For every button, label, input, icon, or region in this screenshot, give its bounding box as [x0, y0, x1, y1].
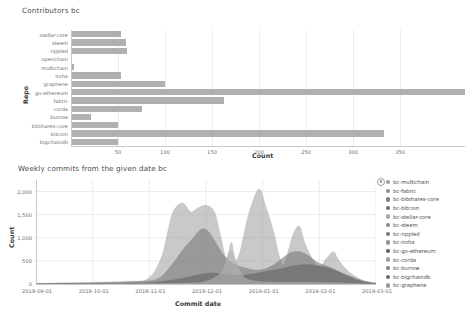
legend-item-label: bc-rippled	[393, 231, 420, 237]
bar-category-label: corda	[0, 106, 68, 112]
legend-swatch-icon	[386, 283, 390, 287]
bar-x-tick-label: 200	[253, 149, 265, 155]
bar-category-label: multichain	[0, 65, 68, 71]
legend-item-label: bc-bitcoin	[393, 205, 419, 211]
bar-category-label: bigchaindb	[0, 139, 68, 145]
bar-x-tick-label: 350	[394, 149, 406, 155]
legend-item-bc-rippled[interactable]: bc-rippled	[386, 230, 474, 239]
bar-bitcoin[interactable]	[71, 130, 384, 136]
legend-swatch-icon	[386, 214, 390, 218]
legend-swatch-icon	[386, 240, 390, 244]
visualization-page: Contributors bc Repo Count stellar-cores…	[0, 0, 475, 318]
bar-x-tick-label: 100	[159, 149, 171, 155]
legend-item-bc-multichain[interactable]: bc-multichain	[386, 178, 474, 187]
legend-swatch-icon	[386, 197, 390, 201]
legend-item-label: bc-go-ethereum	[393, 248, 436, 254]
bar-rippled[interactable]	[71, 48, 127, 54]
legend-item-label: bc-graphene	[393, 282, 427, 288]
bar-category-label: openchain	[0, 56, 68, 62]
legend-item-bc-iroha[interactable]: bc-iroha	[386, 238, 474, 247]
legend-item-label: bc-burrow	[393, 265, 420, 271]
legend-item-label: bc-fabric	[393, 188, 416, 194]
bar-category-label: fabric	[0, 98, 68, 104]
area-x-tick-label: 2019-02-01	[305, 288, 333, 294]
area-chart-y-axis-line	[36, 180, 37, 284]
bar-stellar-core[interactable]	[71, 31, 121, 37]
contributors-bar-chart: Contributors bc Repo Count stellar-cores…	[0, 16, 475, 162]
bar-chart-y-axis-line	[71, 30, 72, 146]
legend-item-label: bc-iroha	[393, 239, 415, 245]
legend-item-label: bc-steem	[393, 222, 418, 228]
area-x-tick-label: 2019-01-01	[249, 288, 277, 294]
area-y-tick-label: 1,500	[0, 212, 32, 218]
bar-category-label: stellar-core	[0, 32, 68, 38]
legend-item-bc-graphene[interactable]: bc-graphene	[386, 281, 474, 290]
legend-swatch-icon	[386, 275, 390, 279]
area-chart-x-axis-line	[36, 284, 376, 285]
bar-corda[interactable]	[71, 106, 142, 112]
legend-swatch-icon	[386, 189, 390, 193]
series-legend[interactable]: bc-multichainbc-fabricbc-bitshares-coreb…	[386, 178, 474, 290]
bar-iroha[interactable]	[71, 72, 121, 78]
bar-category-label: go-ethereum	[0, 90, 68, 96]
bar-fabric[interactable]	[71, 97, 224, 103]
legend-item-bc-go-ethereum[interactable]: bc-go-ethereum	[386, 247, 474, 256]
bar-x-tick-label: 250	[300, 149, 312, 155]
bar-x-tick-label: 300	[347, 149, 359, 155]
legend-item-bc-fabric[interactable]: bc-fabric	[386, 187, 474, 196]
legend-item-bc-steem[interactable]: bc-steem	[386, 221, 474, 230]
legend-swatch-icon	[386, 206, 390, 210]
legend-item-bc-bitcoin[interactable]: bc-bitcoin	[386, 204, 474, 213]
bar-category-label: burrow	[0, 114, 68, 120]
legend-item-label: bc-corda	[393, 257, 416, 263]
legend-swatch-icon	[386, 266, 390, 270]
bar-graphene[interactable]	[71, 81, 165, 87]
area-y-tick-label: 1,000	[0, 235, 32, 241]
bar-chart-title: Contributors bc	[22, 6, 80, 15]
area-chart-title: Weekly commits from the given date bc	[18, 164, 167, 173]
area-x-tick-label: 2018-12-01	[192, 288, 220, 294]
bar-category-label: rippled	[0, 48, 68, 54]
area-plot-area	[36, 180, 376, 284]
bar-burrow[interactable]	[71, 114, 91, 120]
bar-x-tick-label: 150	[206, 149, 218, 155]
bar-x-tick-label: 50	[112, 149, 124, 155]
area-y-tick-label: 2,000	[0, 189, 32, 195]
legend-swatch-icon	[386, 223, 390, 227]
area-chart-x-axis-title: Commit date	[175, 300, 221, 308]
bar-category-label: steem	[0, 40, 68, 46]
area-y-tick-label: 500	[0, 258, 32, 264]
bar-category-label: bitcoin	[0, 131, 68, 137]
bar-plot-area	[71, 30, 465, 146]
legend-item-bc-bitshares-core[interactable]: bc-bitshares-core	[386, 195, 474, 204]
area-series-svg	[36, 180, 376, 284]
area-x-tick-label: 2018-11-01	[135, 288, 163, 294]
legend-swatch-icon	[386, 180, 390, 184]
bar-steem[interactable]	[71, 39, 126, 45]
bar-go-ethereum[interactable]	[71, 89, 465, 95]
area-x-tick-label: 2018-10-01	[79, 288, 107, 294]
legend-swatch-icon	[386, 232, 390, 236]
legend-item-label: bc-stellar-core	[393, 214, 431, 220]
legend-swatch-icon	[386, 249, 390, 253]
bar-chart-x-axis-line	[71, 146, 465, 147]
drag-handle-icon[interactable]	[377, 178, 385, 186]
legend-swatch-icon	[386, 257, 390, 261]
bar-category-label: graphene	[0, 81, 68, 87]
legend-item-bc-bigchaindb[interactable]: bc-bigchaindb	[386, 273, 474, 282]
legend-item-bc-burrow[interactable]: bc-burrow	[386, 264, 474, 273]
bar-bitshares-core[interactable]	[71, 122, 118, 128]
bar-bigchaindb[interactable]	[71, 139, 118, 145]
legend-item-label: bc-bigchaindb	[393, 274, 430, 280]
legend-item-label: bc-multichain	[393, 179, 429, 185]
legend-item-bc-stellar-core[interactable]: bc-stellar-core	[386, 212, 474, 221]
legend-item-bc-corda[interactable]: bc-corda	[386, 255, 474, 264]
bar-category-label: bitshares-core	[0, 123, 68, 129]
area-x-tick-label: 2018-09-01	[22, 288, 50, 294]
legend-item-label: bc-bitshares-core	[393, 196, 439, 202]
legend-items[interactable]: bc-multichainbc-fabricbc-bitshares-coreb…	[386, 178, 474, 290]
bar-category-label: iroha	[0, 73, 68, 79]
area-y-tick-label: 0	[0, 281, 32, 287]
